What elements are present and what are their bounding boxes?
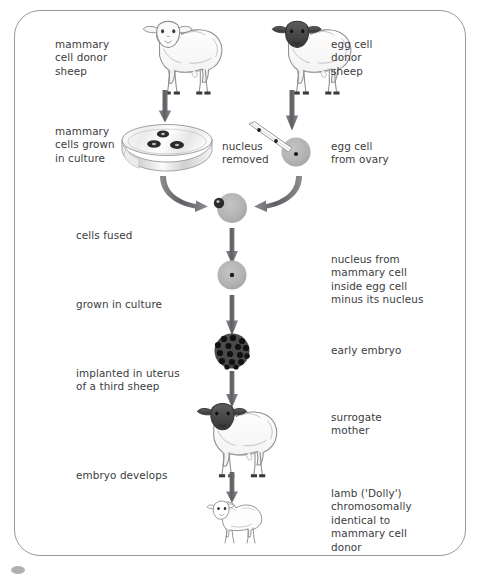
arrow-surrogate-to-lamb bbox=[226, 472, 238, 503]
fused-cell bbox=[214, 193, 247, 223]
label-embryo-develops: embryo develops bbox=[76, 469, 196, 482]
diagram-canvas: mammary cell donor sheep egg cell donor … bbox=[0, 0, 480, 577]
label-lamb-dolly: lamb ('Dolly') chromosomally identical t… bbox=[331, 487, 446, 554]
extracted-nucleus bbox=[257, 128, 261, 132]
label-implanted-in-uterus: implanted in uterus of a third sheep bbox=[76, 367, 196, 394]
cultured-cell-nucleus bbox=[230, 273, 234, 277]
label-nucleus-inside-egg: nucleus from mammary cell inside egg cel… bbox=[331, 253, 456, 307]
arrow-dish-to-fused bbox=[160, 176, 208, 212]
cultured-cell bbox=[218, 261, 247, 290]
sheep-surrogate-mother bbox=[197, 403, 276, 477]
label-surrogate-mother: surrogate mother bbox=[331, 411, 431, 438]
sheep-mammary-donor bbox=[143, 21, 222, 94]
arrow-donor-to-egg bbox=[286, 90, 299, 131]
label-egg-donor: egg cell donor sheep bbox=[331, 38, 431, 78]
early-embryo bbox=[215, 334, 250, 370]
label-grown-in-culture: grown in culture bbox=[76, 298, 186, 311]
label-egg-from-ovary: egg cell from ovary bbox=[331, 140, 436, 167]
arrow-fused-to-cultured bbox=[226, 228, 238, 264]
label-mammary-donor: mammary cell donor sheep bbox=[55, 38, 147, 78]
label-mammary-culture: mammary cells grown in culture bbox=[55, 125, 150, 165]
arrow-cultured-to-embryo bbox=[226, 295, 238, 336]
label-nucleus-removed: nucleus removed bbox=[222, 140, 280, 167]
arrow-donor-to-dish bbox=[159, 90, 172, 122]
egg-cell-nucleus bbox=[294, 152, 298, 156]
lamb-dolly bbox=[207, 501, 262, 543]
page-corner-marker bbox=[11, 566, 25, 574]
label-cells-fused: cells fused bbox=[76, 229, 166, 242]
label-early-embryo: early embryo bbox=[331, 344, 441, 357]
arrow-embryo-to-surrogate bbox=[226, 371, 238, 407]
arrow-egg-to-fused bbox=[254, 176, 302, 212]
